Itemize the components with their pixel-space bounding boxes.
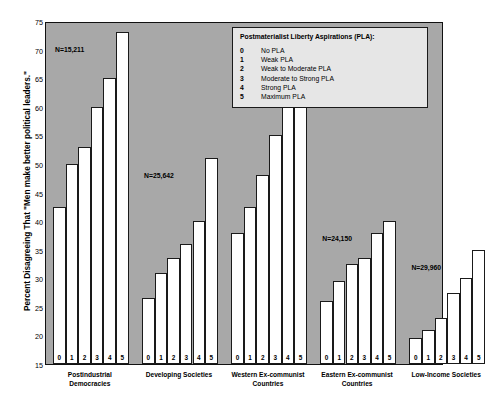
bar: 1	[66, 164, 79, 364]
bar-category-number: 4	[461, 354, 472, 362]
legend-entry: 0No PLA	[240, 46, 420, 55]
bar-category-number: 1	[156, 354, 167, 362]
bar: 5	[205, 158, 218, 364]
legend-entry-key: 1	[240, 55, 261, 64]
legend-entry-description: Weak PLA	[261, 55, 420, 64]
bar-category-number: 2	[436, 354, 447, 362]
bar: 0	[320, 301, 333, 364]
legend-entry-key: 2	[240, 64, 261, 73]
bar: 3	[91, 107, 104, 364]
legend-box: Postmaterialist Liberty Aspirations (PLA…	[232, 27, 428, 108]
legend-entry-key: 3	[240, 74, 261, 83]
bar: 1	[333, 281, 346, 364]
bar: 1	[422, 330, 435, 364]
group-sample-size-label: N=15,211	[55, 46, 84, 53]
bar: 5	[472, 250, 485, 364]
y-axis-tick-label: 60	[0, 103, 43, 112]
legend-entry-description: Strong PLA	[261, 83, 420, 92]
x-axis-group-label-line: Low-Income Societies	[386, 370, 489, 379]
x-axis-group-label-line: Democracies	[30, 379, 150, 388]
bar-category-number: 5	[384, 354, 395, 362]
bar: 2	[346, 264, 359, 364]
bar: 3	[358, 258, 371, 364]
bar-category-number: 2	[347, 354, 358, 362]
bar: 4	[460, 278, 473, 364]
bar-category-number: 1	[423, 354, 434, 362]
y-axis-tick-label: 75	[0, 18, 43, 27]
bar: 5	[383, 221, 396, 364]
bar-category-number: 1	[334, 354, 345, 362]
legend-entry-key: 5	[240, 92, 261, 101]
bar-category-number: 5	[206, 354, 217, 362]
legend-entry-description: Weak to Moderate PLA	[261, 64, 420, 73]
group-sample-size-label: N=25,642	[144, 172, 174, 179]
bar: 4	[193, 221, 206, 364]
bar-category-number: 2	[257, 354, 268, 362]
legend-entry: 5Maximum PLA	[240, 92, 420, 101]
legend-entry-key: 4	[240, 83, 261, 92]
bar-category-number: 5	[117, 354, 128, 362]
bar: 4	[103, 78, 116, 364]
bar-category-number: 4	[194, 354, 205, 362]
bar-category-number: 5	[295, 354, 306, 362]
bar-category-number: 1	[245, 354, 256, 362]
y-axis-tick-label: 20	[0, 332, 43, 341]
bar-category-number: 2	[168, 354, 179, 362]
legend-entry-key: 0	[240, 46, 261, 55]
x-axis-group-label-line: Countries	[297, 379, 417, 388]
legend-entry-description: Moderate to Strong PLA	[261, 74, 420, 83]
bar-category-number: 3	[181, 354, 192, 362]
bar: 3	[269, 135, 282, 364]
bar: 5	[116, 32, 129, 364]
y-axis-tick-label: 15	[0, 361, 43, 370]
bar-category-number: 2	[79, 354, 90, 362]
bar-category-number: 5	[473, 354, 484, 362]
bar-category-number: 4	[372, 354, 383, 362]
group-sample-size-label: N=29,960	[411, 264, 441, 271]
bar: 0	[142, 298, 155, 364]
legend-entry-description: Maximum PLA	[261, 92, 420, 101]
bar-category-number: 3	[270, 354, 281, 362]
legend-entry-description: No PLA	[261, 46, 420, 55]
bar: 0	[409, 338, 422, 364]
y-axis-tick-label: 70	[0, 46, 43, 55]
bar-category-number: 0	[54, 354, 65, 362]
y-axis-tick-label: 65	[0, 75, 43, 84]
bar: 0	[53, 207, 66, 364]
bar-category-number: 0	[232, 354, 243, 362]
legend-entry: 3Moderate to Strong PLA	[240, 74, 420, 83]
bar-category-number: 3	[92, 354, 103, 362]
bar-category-number: 4	[283, 354, 294, 362]
legend-entries: 0No PLA1Weak PLA2Weak to Moderate PLA3Mo…	[240, 46, 420, 101]
legend-title: Postmaterialist Liberty Aspirations (PLA…	[240, 33, 420, 40]
legend-entry: 2Weak to Moderate PLA	[240, 64, 420, 73]
bar: 0	[231, 233, 244, 364]
bar: 4	[282, 107, 295, 364]
bar: 5	[294, 67, 307, 364]
bar-category-number: 0	[143, 354, 154, 362]
bar-category-number: 0	[410, 354, 421, 362]
x-axis-group-label: Low-Income Societies	[386, 370, 489, 379]
y-axis-tick-label: 35	[0, 246, 43, 255]
bar: 1	[244, 207, 257, 364]
bar: 3	[447, 293, 460, 364]
legend-entry: 1Weak PLA	[240, 55, 420, 64]
group-sample-size-label: N=24,150	[322, 235, 352, 242]
y-axis-tick-label: 45	[0, 189, 43, 198]
y-axis-tick-label: 50	[0, 160, 43, 169]
bar: 4	[371, 233, 384, 364]
y-axis-tick-label: 25	[0, 303, 43, 312]
bar-category-number: 3	[359, 354, 370, 362]
bar-category-number: 0	[321, 354, 332, 362]
bar: 3	[180, 244, 193, 364]
bar-category-number: 1	[67, 354, 78, 362]
bar: 2	[78, 147, 91, 364]
legend-entry: 4Strong PLA	[240, 83, 420, 92]
bar: 2	[435, 318, 448, 364]
y-axis-tick-label: 30	[0, 275, 43, 284]
bar: 2	[167, 258, 180, 364]
bar-category-number: 4	[104, 354, 115, 362]
bar: 1	[155, 273, 168, 364]
y-axis-tick-label: 55	[0, 132, 43, 141]
